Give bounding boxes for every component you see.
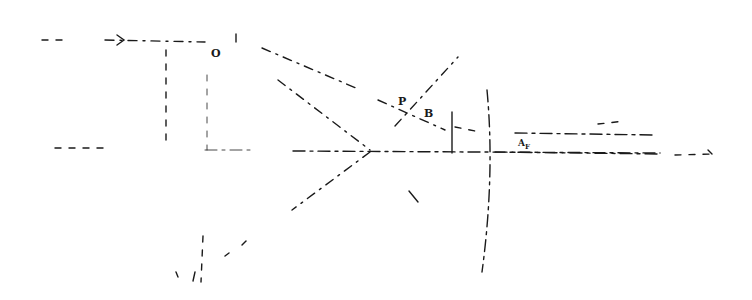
converging-ray-lower [292, 152, 370, 210]
ray-diagram [0, 0, 752, 300]
lower-left-fragments [176, 241, 246, 281]
label-point-p: P [398, 96, 406, 107]
upper-ray [262, 48, 356, 88]
vertical-guide-bottom [201, 236, 203, 282]
curved-lens [482, 90, 490, 272]
ray-through-p [378, 100, 445, 130]
converging-ray-upper [278, 80, 370, 150]
incoming-ray-top [42, 34, 236, 45]
label-right: AF [518, 139, 530, 150]
label-point-b: B [424, 108, 433, 119]
stop-ray [455, 127, 480, 132]
label-origin: O [211, 48, 221, 59]
lower-ray-fragment [409, 191, 418, 202]
